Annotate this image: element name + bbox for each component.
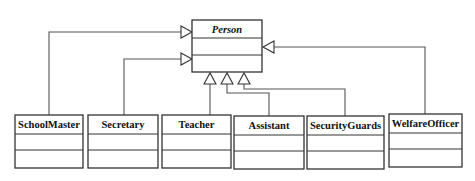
class-assistant[interactable]: Assistant [234, 116, 304, 169]
inheritance-arrowhead-icon [204, 73, 216, 84]
class-teacher[interactable]: Teacher [162, 115, 231, 168]
inheritance-arrowhead-icon [238, 73, 250, 84]
class-name: SecurityGuards [310, 120, 381, 131]
uml-class-diagram: Person SchoolMaster Secretary Teacher As… [0, 0, 475, 181]
connector-schoolmaster [49, 32, 181, 115]
inheritance-arrowhead-icon [181, 26, 192, 38]
class-name: Teacher [179, 119, 215, 130]
connector-welfareofficer [274, 47, 425, 114]
class-name: WelfareOfficer [392, 118, 460, 129]
class-name: Secretary [102, 119, 146, 130]
class-name: Assistant [249, 120, 290, 131]
inheritance-arrowhead-icon [181, 53, 192, 65]
class-name: Person [212, 24, 242, 35]
class-securityguards[interactable]: SecurityGuards [307, 116, 384, 169]
connector-securityguards [244, 84, 345, 116]
inheritance-arrowhead-icon [263, 41, 274, 53]
class-schoolmaster[interactable]: SchoolMaster [15, 115, 83, 168]
inheritance-arrowhead-icon [221, 73, 233, 84]
class-secretary[interactable]: Secretary [88, 115, 158, 168]
class-welfareofficer[interactable]: WelfareOfficer [389, 114, 462, 167]
class-person[interactable]: Person [192, 20, 262, 72]
connector-secretary [124, 59, 181, 115]
class-name: SchoolMaster [18, 119, 80, 130]
